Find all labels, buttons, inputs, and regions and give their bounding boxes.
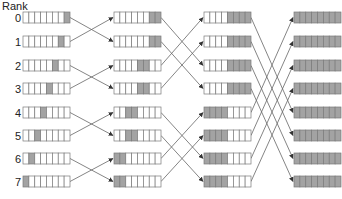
buffer-cell-filled xyxy=(306,130,312,141)
buffer-rank-6 xyxy=(204,153,251,164)
buffer-rank-7 xyxy=(23,176,70,187)
rank-label: 1 xyxy=(15,36,21,48)
buffer-rank-6 xyxy=(23,153,70,164)
buffer-cell-filled xyxy=(306,60,312,71)
buffer-cell-filled xyxy=(204,153,210,164)
buffer-cell-empty xyxy=(47,107,53,118)
buffer-cell-empty xyxy=(228,130,234,141)
buffer-cell-filled xyxy=(300,12,306,23)
buffer-cell-filled xyxy=(233,83,239,94)
buffer-cell-filled xyxy=(294,176,300,187)
buffer-cell-filled xyxy=(306,12,312,23)
buffer-cell-filled xyxy=(143,83,149,94)
buffer-cell-empty xyxy=(233,130,239,141)
buffer-cell-filled xyxy=(29,153,35,164)
buffer-cell-filled xyxy=(294,83,300,94)
buffer-cell-empty xyxy=(126,83,132,94)
buffer-cell-filled xyxy=(300,107,306,118)
buffer-cell-filled xyxy=(143,60,149,71)
buffer-cell-empty xyxy=(52,12,58,23)
buffer-cell-filled xyxy=(126,130,132,141)
buffer-cell-filled xyxy=(294,107,300,118)
buffer-cell-empty xyxy=(47,130,53,141)
buffer-cell-filled xyxy=(318,130,324,141)
buffer-cell-filled xyxy=(318,107,324,118)
buffer-cell-empty xyxy=(23,153,29,164)
buffer-cell-empty xyxy=(143,130,149,141)
buffer-cell-empty xyxy=(239,107,245,118)
buffer-rank-2 xyxy=(23,60,70,71)
buffer-cell-filled xyxy=(228,12,234,23)
buffer-cell-filled xyxy=(300,60,306,71)
buffer-cell-filled xyxy=(329,83,335,94)
buffer-cell-filled xyxy=(335,107,341,118)
buffer-cell-filled xyxy=(239,12,245,23)
buffer-cell-empty xyxy=(64,153,70,164)
buffer-cell-empty xyxy=(138,130,144,141)
buffer-column-step-2 xyxy=(204,12,251,187)
buffer-cell-empty xyxy=(155,107,161,118)
buffer-cell-empty xyxy=(149,153,155,164)
buffer-cell-empty xyxy=(52,130,58,141)
buffer-cell-empty xyxy=(114,60,120,71)
buffer-rank-2 xyxy=(204,60,251,71)
buffer-cell-filled xyxy=(300,36,306,47)
rank-labels: 01234567 xyxy=(15,12,21,188)
buffer-cell-empty xyxy=(114,130,120,141)
buffer-cell-empty xyxy=(52,36,58,47)
buffers xyxy=(23,12,341,187)
buffer-cell-empty xyxy=(52,83,58,94)
buffer-cell-empty xyxy=(233,176,239,187)
buffer-cell-empty xyxy=(216,60,222,71)
buffer-rank-4 xyxy=(204,107,251,118)
buffer-cell-filled xyxy=(312,176,318,187)
buffer-cell-filled xyxy=(210,153,216,164)
buffer-cell-empty xyxy=(120,36,126,47)
buffer-cell-filled xyxy=(138,83,144,94)
buffer-cell-filled xyxy=(323,60,329,71)
buffer-cell-empty xyxy=(114,107,120,118)
buffer-cell-empty xyxy=(23,36,29,47)
buffer-cell-empty xyxy=(35,176,41,187)
buffer-rank-3 xyxy=(294,83,341,94)
buffer-cell-empty xyxy=(35,83,41,94)
buffer-cell-filled xyxy=(329,107,335,118)
buffer-cell-empty xyxy=(120,12,126,23)
buffer-cell-filled xyxy=(114,153,120,164)
buffer-cell-empty xyxy=(64,36,70,47)
buffer-cell-filled xyxy=(233,12,239,23)
buffer-cell-empty xyxy=(35,12,41,23)
buffer-cell-filled xyxy=(306,107,312,118)
buffer-cell-filled xyxy=(329,130,335,141)
buffer-cell-empty xyxy=(29,130,35,141)
buffer-cell-filled xyxy=(120,176,126,187)
buffer-cell-empty xyxy=(35,107,41,118)
buffer-cell-empty xyxy=(47,12,53,23)
buffer-cell-empty xyxy=(114,83,120,94)
buffer-cell-empty xyxy=(132,83,138,94)
buffer-cell-filled xyxy=(335,60,341,71)
buffer-cell-filled xyxy=(323,130,329,141)
buffer-cell-filled xyxy=(318,12,324,23)
buffer-cell-empty xyxy=(233,107,239,118)
buffer-cell-filled xyxy=(35,130,41,141)
buffer-cell-filled xyxy=(329,60,335,71)
buffer-cell-empty xyxy=(64,60,70,71)
buffer-cell-empty xyxy=(52,107,58,118)
buffer-cell-filled xyxy=(58,36,64,47)
buffer-cell-filled xyxy=(204,176,210,187)
buffer-cell-filled xyxy=(52,60,58,71)
buffer-cell-filled xyxy=(329,176,335,187)
buffer-cell-filled xyxy=(228,83,234,94)
buffer-cell-filled xyxy=(149,12,155,23)
buffer-cell-empty xyxy=(155,83,161,94)
buffer-rank-2 xyxy=(294,60,341,71)
buffer-cell-empty xyxy=(41,83,47,94)
buffer-cell-filled xyxy=(323,176,329,187)
buffer-cell-empty xyxy=(143,176,149,187)
buffer-cell-empty xyxy=(47,153,53,164)
buffer-cell-empty xyxy=(41,130,47,141)
buffer-cell-empty xyxy=(216,36,222,47)
buffer-cell-empty xyxy=(35,36,41,47)
buffer-cell-filled xyxy=(210,176,216,187)
